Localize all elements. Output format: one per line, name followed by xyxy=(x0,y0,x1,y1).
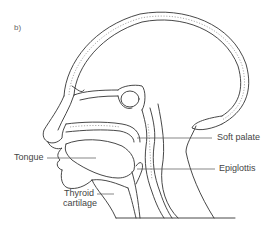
spine xyxy=(158,104,178,218)
hard-palate xyxy=(66,122,140,142)
chin xyxy=(61,170,92,189)
forehead-profile xyxy=(43,96,64,142)
tongue-outline xyxy=(65,140,134,178)
anatomy-figure: b) xyxy=(0,0,271,233)
pharynx-posterior xyxy=(142,110,164,218)
epiglottis-shape xyxy=(136,163,143,184)
label-cartilage: cartilage xyxy=(63,199,97,208)
label-epiglottis: Epiglottis xyxy=(219,164,256,173)
cranial-base xyxy=(74,90,118,95)
lips xyxy=(48,142,62,170)
neck-posterior xyxy=(186,126,214,218)
head-sagittal-section-drawing xyxy=(0,0,271,233)
label-tongue: Tongue xyxy=(14,153,44,162)
skull-outer xyxy=(64,12,249,124)
jaw xyxy=(92,180,128,188)
label-soft-palate: Soft palate xyxy=(217,133,260,142)
label-thyroid: Thyroid xyxy=(64,189,94,198)
nose xyxy=(48,124,66,143)
